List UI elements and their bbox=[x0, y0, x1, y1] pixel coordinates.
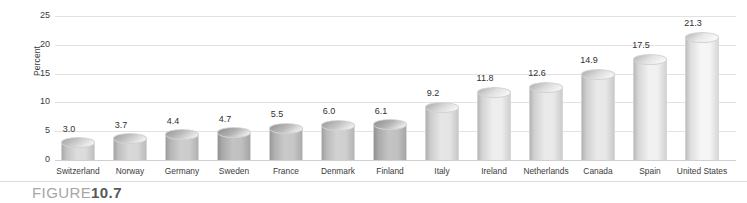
bar-top-ellipse bbox=[425, 102, 459, 113]
bar-chart: Percent 0510152025 3.0Switzerland3.7Norw… bbox=[0, 0, 747, 180]
bar[interactable] bbox=[321, 125, 355, 160]
bar-group[interactable]: 4.7 bbox=[208, 0, 260, 160]
y-axis-tick-label: 25 bbox=[28, 10, 50, 20]
x-axis-category-label: United States bbox=[676, 166, 728, 178]
figure-caption-number: 10.7 bbox=[91, 184, 122, 201]
y-axis-tick-label: 20 bbox=[28, 39, 50, 49]
bar-group[interactable]: 5.5 bbox=[260, 0, 312, 160]
bar[interactable] bbox=[61, 143, 95, 160]
bar-value-label: 4.7 bbox=[199, 114, 251, 124]
bar-body bbox=[529, 87, 563, 160]
bar-top-ellipse bbox=[269, 123, 303, 134]
bar-value-label: 12.6 bbox=[511, 68, 563, 78]
bar[interactable] bbox=[685, 37, 719, 160]
y-axis-tick-label: 0 bbox=[28, 154, 50, 164]
bar-group[interactable]: 4.4 bbox=[156, 0, 208, 160]
bar[interactable] bbox=[633, 59, 667, 160]
bar-value-label: 4.4 bbox=[147, 116, 199, 126]
x-axis-category-label: Switzerland bbox=[52, 166, 104, 178]
bar-value-label: 21.3 bbox=[667, 18, 719, 28]
bar-top-ellipse bbox=[529, 82, 563, 93]
bar-value-label: 9.2 bbox=[407, 88, 459, 98]
x-axis-category-label: Netherlands bbox=[520, 166, 572, 178]
bar-group[interactable]: 6.1 bbox=[364, 0, 416, 160]
bar[interactable] bbox=[581, 74, 615, 160]
y-axis-title: Percent bbox=[32, 26, 42, 96]
x-axis-category-label: Denmark bbox=[312, 166, 364, 178]
bar-body bbox=[581, 74, 615, 160]
x-axis-category-label: Canada bbox=[572, 166, 624, 178]
y-axis-tick-label: 15 bbox=[28, 68, 50, 78]
bar-top-ellipse bbox=[633, 54, 667, 65]
bar-value-label: 17.5 bbox=[615, 40, 667, 50]
bar-body bbox=[373, 125, 407, 160]
x-axis-category-label: Spain bbox=[624, 166, 676, 178]
bar-body bbox=[477, 92, 511, 160]
bar-group[interactable]: 14.9 bbox=[572, 0, 624, 160]
caption-divider bbox=[0, 181, 747, 182]
bar-value-label: 11.8 bbox=[459, 73, 511, 83]
x-axis-category-label: Norway bbox=[104, 166, 156, 178]
figure-caption-label: FIGURE bbox=[32, 184, 91, 201]
bar-value-label: 6.1 bbox=[355, 106, 407, 116]
bar[interactable] bbox=[269, 128, 303, 160]
bar[interactable] bbox=[217, 133, 251, 160]
x-axis-category-label: Italy bbox=[416, 166, 468, 178]
bar[interactable] bbox=[477, 92, 511, 160]
x-axis-category-label: Germany bbox=[156, 166, 208, 178]
bar-value-label: 6.0 bbox=[303, 106, 355, 116]
bar-group[interactable]: 3.7 bbox=[104, 0, 156, 160]
x-axis-category-label: Finland bbox=[364, 166, 416, 178]
bar-value-label: 14.9 bbox=[563, 55, 615, 65]
bar-top-ellipse bbox=[321, 120, 355, 131]
bar-top-ellipse bbox=[685, 32, 719, 43]
bar-body bbox=[633, 59, 667, 160]
bar[interactable] bbox=[113, 139, 147, 160]
bar-body bbox=[425, 107, 459, 160]
bar-group[interactable]: 3.0 bbox=[52, 0, 104, 160]
bar-value-label: 5.5 bbox=[251, 109, 303, 119]
figure-panel: Percent 0510152025 3.0Switzerland3.7Norw… bbox=[0, 0, 747, 203]
bar-group[interactable]: 6.0 bbox=[312, 0, 364, 160]
bar-body bbox=[685, 37, 719, 160]
bar-top-ellipse bbox=[477, 87, 511, 98]
bar[interactable] bbox=[373, 125, 407, 160]
bar-group[interactable]: 21.3 bbox=[676, 0, 728, 160]
y-axis-tick-label: 10 bbox=[28, 96, 50, 106]
figure-caption: FIGURE10.7 bbox=[32, 184, 122, 201]
gridline bbox=[55, 160, 736, 161]
x-axis-category-label: Ireland bbox=[468, 166, 520, 178]
bar-value-label: 3.7 bbox=[95, 120, 147, 130]
bar-value-label: 3.0 bbox=[43, 124, 95, 134]
x-axis-category-label: Sweden bbox=[208, 166, 260, 178]
bar[interactable] bbox=[165, 135, 199, 160]
bar[interactable] bbox=[529, 87, 563, 160]
bar[interactable] bbox=[425, 107, 459, 160]
x-axis-category-label: France bbox=[260, 166, 312, 178]
bar-group[interactable]: 12.6 bbox=[520, 0, 572, 160]
bar-top-ellipse bbox=[581, 69, 615, 80]
bar-group[interactable]: 11.8 bbox=[468, 0, 520, 160]
